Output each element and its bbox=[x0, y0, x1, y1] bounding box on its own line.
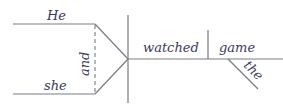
object-word: game bbox=[219, 40, 255, 55]
sentence-diagram: He she and watched game the bbox=[0, 0, 283, 107]
verb-word: watched bbox=[143, 40, 199, 55]
subject-word-she: she bbox=[44, 78, 67, 93]
conjunction-word: and bbox=[77, 52, 92, 76]
modifier-word: the bbox=[241, 58, 267, 84]
subject-word-he: He bbox=[46, 8, 66, 23]
subject-join-top bbox=[95, 24, 128, 59]
subject-join-bottom bbox=[95, 59, 128, 94]
